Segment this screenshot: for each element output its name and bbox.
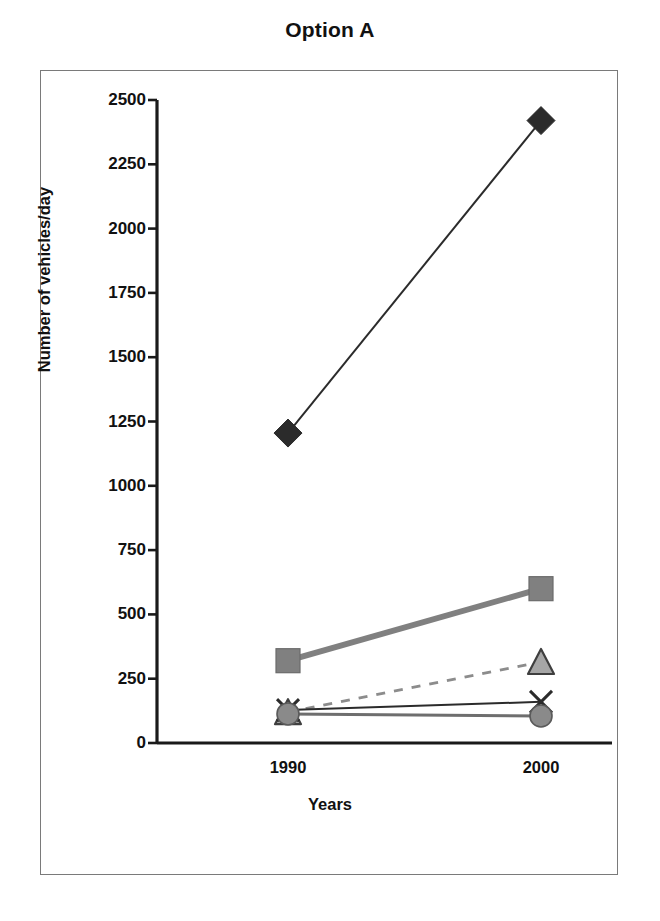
axes-group — [148, 100, 612, 743]
series-square-line — [288, 589, 541, 661]
y-axis-tick-label: 0 — [46, 733, 146, 753]
series-square-marker — [276, 649, 300, 673]
series-diamond-marker — [527, 107, 555, 135]
series-square — [276, 577, 553, 673]
x-axis-tick-label: 1990 — [228, 758, 348, 777]
series-circle-line — [288, 714, 541, 716]
series-group — [274, 107, 555, 727]
y-axis-tick-label: 250 — [46, 669, 146, 689]
series-diamond-marker — [274, 419, 302, 447]
y-axis-tick-label: 1250 — [46, 412, 146, 432]
y-axis-tick-label: 1750 — [46, 283, 146, 303]
y-axis-tick-label: 2250 — [46, 154, 146, 174]
y-axis-tick-label: 2500 — [46, 90, 146, 110]
y-axis-tick-labels: 02505007501000125015001750200022502500 — [46, 0, 146, 921]
y-axis-tick-label: 500 — [46, 604, 146, 624]
x-axis-tick-label: 2000 — [481, 758, 601, 777]
y-axis-title: Number of vehicles/day — [35, 150, 54, 410]
y-axis-tick-label: 750 — [46, 540, 146, 560]
series-square-marker — [529, 577, 553, 601]
y-axis-tick-label: 1500 — [46, 347, 146, 367]
series-diamond-line — [288, 121, 541, 433]
chart-figure: Option A 0250500750100012501500175020002… — [0, 0, 660, 921]
x-axis-title: Years — [0, 795, 660, 814]
series-circle-marker — [530, 705, 552, 727]
series-triangle-marker — [528, 649, 554, 674]
series-circle-marker — [277, 703, 299, 725]
y-axis-tick-label: 1000 — [46, 476, 146, 496]
y-axis-tick-label: 2000 — [46, 219, 146, 239]
series-triangle-line — [288, 662, 541, 712]
series-diamond — [274, 107, 555, 447]
